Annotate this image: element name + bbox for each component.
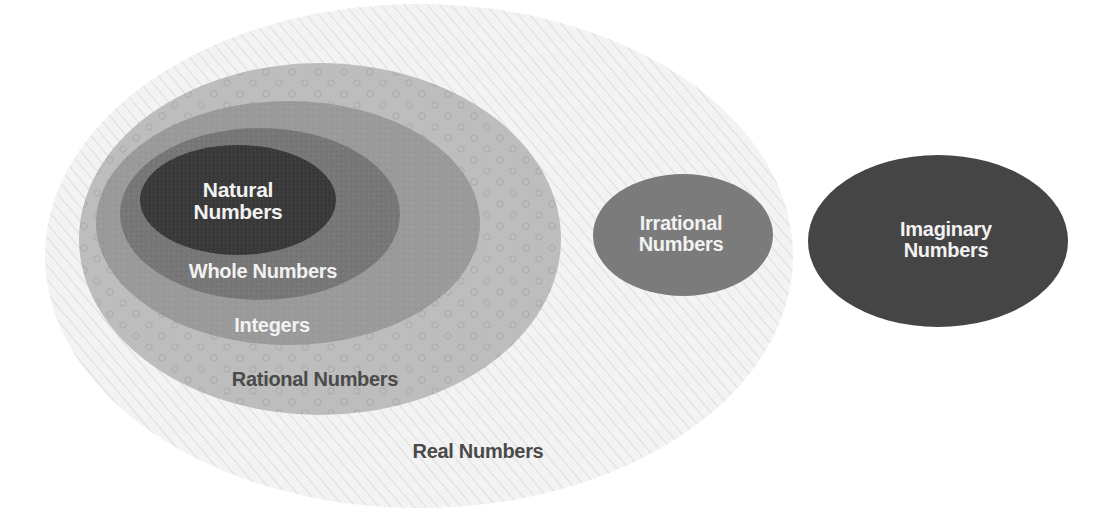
integers-label: Integers — [234, 315, 309, 336]
rational-numbers-label: Rational Numbers — [232, 369, 398, 390]
natural-numbers-label: Natural Numbers — [194, 179, 283, 223]
natural-label-line2: Numbers — [194, 201, 283, 223]
irrational-numbers-label: Irrational Numbers — [639, 213, 724, 255]
whole-numbers-label: Whole Numbers — [189, 261, 337, 282]
irrational-label-line2: Numbers — [639, 234, 724, 255]
imaginary-numbers-label: Imaginary Numbers — [900, 219, 992, 261]
irrational-label-line1: Irrational — [639, 213, 724, 234]
real-numbers-label: Real Numbers — [413, 441, 544, 462]
natural-label-line1: Natural — [194, 179, 283, 201]
imaginary-label-line2: Numbers — [900, 240, 992, 261]
imaginary-label-line1: Imaginary — [900, 219, 992, 240]
